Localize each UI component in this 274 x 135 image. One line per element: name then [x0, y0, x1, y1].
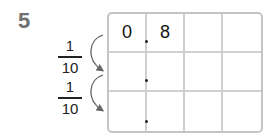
grid-cell[interactable] — [147, 92, 185, 131]
cell-value: 0 — [122, 22, 132, 43]
grid-cell[interactable] — [223, 92, 261, 131]
grid-cell[interactable] — [109, 92, 147, 131]
grid-cell[interactable] — [185, 92, 223, 131]
grid-cell[interactable]: 0 — [109, 14, 147, 53]
grid-cell[interactable] — [185, 53, 223, 92]
grid-cell[interactable] — [185, 14, 223, 53]
grid-cell[interactable] — [109, 53, 147, 92]
grid-cell[interactable]: 8 — [147, 14, 185, 53]
decimal-place-grid: 0 8 — [107, 12, 263, 133]
grid-cell[interactable] — [147, 53, 185, 92]
cell-value: 8 — [160, 22, 170, 43]
grid-cell[interactable] — [223, 53, 261, 92]
grid-cell[interactable] — [223, 14, 261, 53]
